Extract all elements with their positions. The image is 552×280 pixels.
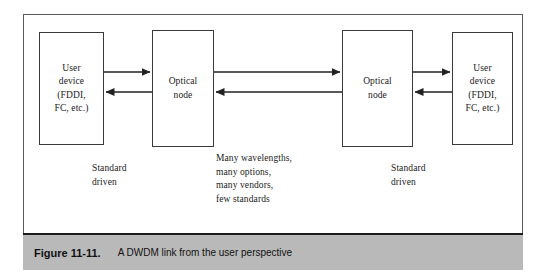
box-user-device-left-label: User device (FDDI, FC, etc.) xyxy=(55,62,89,116)
diagram-canvas: User device (FDDI, FC, etc.) Optical nod… xyxy=(23,14,523,232)
box-user-device-right-label: User device (FDDI, FC, etc.) xyxy=(466,62,500,116)
annotation-standard-driven-right: Standard driven xyxy=(391,162,426,189)
box-optical-node-left-label: Optical node xyxy=(169,75,198,102)
box-user-device-right: User device (FDDI, FC, etc.) xyxy=(452,32,513,145)
box-user-device-left: User device (FDDI, FC, etc.) xyxy=(39,32,104,145)
box-optical-node-right: Optical node xyxy=(342,30,413,147)
box-optical-node-right-label: Optical node xyxy=(363,75,392,102)
figure-caption-number: Figure 11-11. xyxy=(34,247,101,259)
figure-caption-text: A DWDM link from the user perspective xyxy=(118,247,293,258)
annotation-dwdm-properties: Many wavelengths, many options, many ven… xyxy=(216,152,292,206)
annotation-standard-driven-left: Standard driven xyxy=(92,162,127,189)
figure-container: User device (FDDI, FC, etc.) Optical nod… xyxy=(0,0,552,280)
box-optical-node-left: Optical node xyxy=(152,30,214,147)
figure-caption-bar: Figure 11-11. A DWDM link from the user … xyxy=(23,233,523,270)
